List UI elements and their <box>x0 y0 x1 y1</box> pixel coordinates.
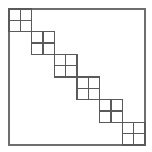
staircase-squares-diagram <box>0 0 152 152</box>
figure-root <box>0 0 152 152</box>
canvas-background <box>0 0 152 152</box>
